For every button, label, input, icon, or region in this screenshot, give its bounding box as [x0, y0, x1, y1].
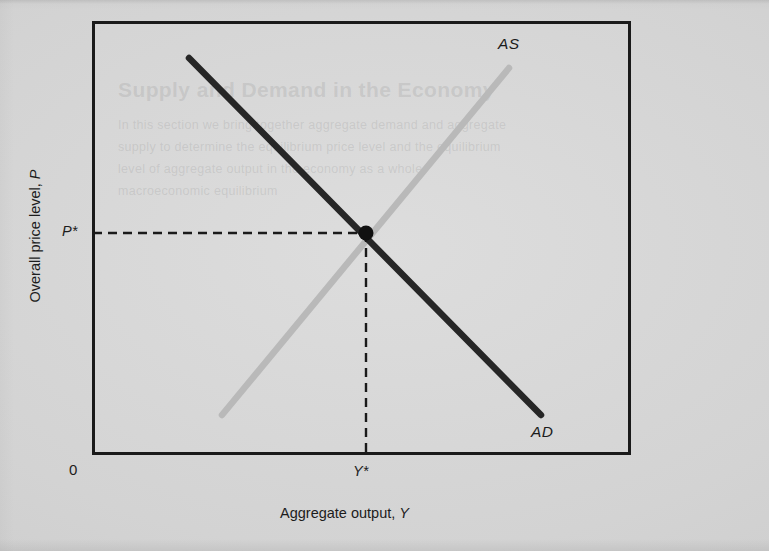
y-axis-label: Overall price level, P — [27, 141, 43, 331]
plot-frame — [92, 21, 631, 455]
origin-label: 0 — [69, 461, 77, 478]
equilibrium-price-label: P* — [62, 223, 77, 239]
ad-as-figure: Supply and Demand in the Economy In this… — [0, 0, 769, 551]
aggregate-demand-label: AD — [531, 423, 554, 441]
x-axis-variable: Y — [399, 505, 409, 521]
aggregate-supply-label: AS — [498, 35, 520, 53]
x-axis-label-text: Aggregate output, — [280, 505, 399, 521]
equilibrium-output-label: Y* — [353, 463, 368, 479]
x-axis-label: Aggregate output, Y — [280, 505, 409, 521]
y-axis-label-text: Overall price level, — [27, 179, 43, 302]
y-axis-variable: P — [27, 170, 43, 180]
